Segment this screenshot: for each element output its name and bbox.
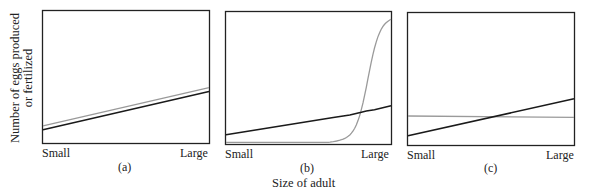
panel-a-label: (a) (118, 160, 131, 175)
panel-c-x-min-label: Small (407, 148, 435, 163)
panel-c-frame (408, 13, 575, 146)
panel-b-x-max-label: Large (361, 147, 389, 162)
panel-a-x-max-label: Large (180, 146, 208, 161)
x-axis-label: Size of adult (272, 176, 335, 191)
panel-c-label: (c) (484, 161, 497, 176)
panel-a-dark-line (43, 92, 209, 130)
panel-a-x-min-label: Small (42, 146, 70, 161)
panel-b-dark-line (226, 106, 391, 135)
panel-a (43, 11, 210, 144)
panel-b-gray-line (226, 19, 391, 142)
chart-plots (0, 0, 592, 193)
panel-c-x-max-label: Large (546, 148, 574, 163)
panel-b (226, 12, 392, 145)
panel-b-x-min-label: Small (225, 147, 253, 162)
panel-c (408, 13, 575, 146)
panel-a-gray-line (43, 88, 209, 126)
panel-b-label: (b) (300, 161, 314, 176)
panel-b-frame (226, 12, 392, 145)
